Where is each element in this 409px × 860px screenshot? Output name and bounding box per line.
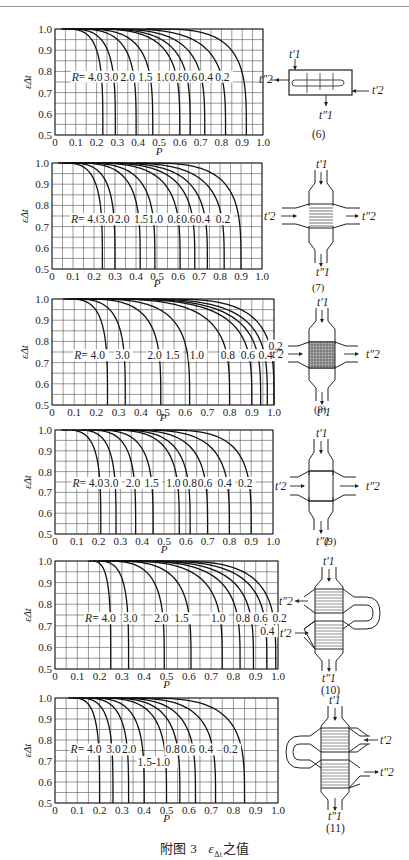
- y-tick-label: 0.7: [38, 486, 52, 498]
- curve-R-0_2: [147, 29, 247, 135]
- curve-R-4_0: [58, 163, 102, 269]
- x-tick-label: 0.5: [157, 535, 171, 547]
- x-tick-label: 0: [49, 270, 55, 282]
- curve-R-3_0: [93, 561, 129, 669]
- x-tick-label: 0.8: [223, 535, 237, 547]
- curve-R-0_8: [92, 299, 252, 405]
- curve-label: 0.4: [217, 477, 232, 489]
- x-tick-label: 0.2: [90, 136, 104, 148]
- y-axis-label: εΔt: [21, 74, 33, 89]
- curve-label: 3.0: [106, 743, 121, 755]
- diagram-9-t2-out-label: t″2: [366, 480, 380, 492]
- curve-label: 0.8: [169, 71, 184, 83]
- curve-R-0_6: [92, 163, 207, 269]
- x-tick-label: 0.7: [192, 270, 206, 282]
- curve-R-0_6: [102, 698, 196, 803]
- diagram-10-t1-in-label: t′1: [323, 555, 334, 567]
- y-tick-label: 0.6: [35, 242, 49, 254]
- curve-label: 2.0: [147, 349, 162, 361]
- y-tick-label: 0.7: [35, 357, 49, 369]
- x-axis-label: P: [155, 145, 163, 157]
- x-tick-label: 0.2: [93, 804, 107, 816]
- diagram-10-t2-out-label: t″2: [279, 595, 293, 607]
- x-tick-label: 0.7: [204, 670, 218, 682]
- curve-label: 0.6: [241, 349, 256, 361]
- y-axis-label: εΔt: [21, 607, 33, 622]
- y-axis-label: εΔt: [21, 743, 33, 758]
- y-tick-label: 0.6: [38, 776, 52, 788]
- diagram-9-t1-in-label: t′1: [316, 427, 327, 439]
- curve-R-1_5: [82, 698, 144, 803]
- curve-R-0_4: [127, 430, 229, 534]
- curve-R-1_5: [71, 163, 155, 269]
- curve-R-2_0: [81, 430, 136, 534]
- curve-label: 1.5: [144, 477, 159, 489]
- x-tick-label: 0.6: [182, 670, 196, 682]
- y-tick-label: 0.8: [35, 199, 49, 211]
- x-tick-label: 0.9: [249, 804, 263, 816]
- curve-label: 1.5: [165, 349, 180, 361]
- curve-label: 1.5-1.0: [138, 756, 171, 768]
- x-tick-label: 0.4: [129, 270, 143, 282]
- diagram-11-t2-in-label: t′2: [380, 734, 392, 746]
- y-tick-label: 0.8: [38, 734, 52, 746]
- caption-prefix: 附图 3: [160, 841, 198, 856]
- curve-R-3_0: [63, 29, 115, 135]
- x-tick-label: 0.9: [244, 535, 258, 547]
- diagram-6-number-label: (6): [312, 128, 326, 141]
- x-tick-label: 0: [49, 406, 55, 418]
- x-tick-label: 0.8: [227, 670, 241, 682]
- curve-label: 2.0: [122, 743, 137, 755]
- curve-label: R= 4.0: [71, 477, 103, 489]
- curve-label: 0.4: [260, 625, 275, 637]
- y-tick-label: 0.7: [38, 620, 52, 632]
- x-tick-label: 0: [52, 535, 58, 547]
- x-tick-label: 0.4: [131, 136, 145, 148]
- curve-R-2_0: [74, 299, 161, 405]
- y-tick-label: 0.7: [38, 87, 52, 99]
- x-tick-label: 0.3: [112, 406, 126, 418]
- curve-label: 0.6: [183, 71, 198, 83]
- x-tick-label: 0.3: [114, 535, 128, 547]
- curve-R-2_0: [77, 698, 128, 803]
- curve-label: 1.5: [174, 612, 189, 624]
- curve-R-0_2: [136, 163, 241, 269]
- y-tick-label: 0.8: [35, 335, 49, 347]
- diagram-10-two-pass-crossflow-exchanger: t′1 t″2 t′2 t″1 (10): [280, 553, 390, 693]
- curve-R-0_4: [105, 163, 225, 269]
- diagram-8-t2-in-label: t′2: [272, 348, 284, 360]
- x-tick-label: 0.5: [156, 406, 170, 418]
- x-axis-label: P: [160, 543, 168, 555]
- curve-label: R= 4.0: [70, 743, 102, 755]
- diagram-6-t2-out-label: t″2: [259, 73, 273, 85]
- y-tick-label: 0.5: [38, 129, 52, 141]
- figure-caption: 附图 3 εΔt之值: [0, 838, 409, 859]
- x-tick-label: 0.4: [135, 535, 149, 547]
- diagram-8-t1-in-label: t′1: [317, 296, 328, 308]
- x-tick-label: 0.1: [70, 535, 84, 547]
- curve-R-2_0: [67, 163, 141, 269]
- x-tick-label: 0.9: [234, 270, 248, 282]
- diagram-9-number-label: (9): [324, 536, 336, 547]
- diagram-8-crossflow-finned-exchanger: t′1 t′2 t″2 t″1: [278, 296, 388, 426]
- x-tick-label: 0.5: [160, 670, 174, 682]
- curve-label: 1.5: [138, 71, 153, 83]
- diagram-11-t1-in-label: t′1: [329, 694, 340, 706]
- x-tick-label: 0.3: [111, 136, 125, 148]
- curve-R-3_0: [72, 430, 116, 534]
- curve-label: 0.4: [258, 349, 273, 361]
- x-tick-label: 0.2: [90, 406, 104, 418]
- curve-R-2_0: [97, 561, 164, 669]
- x-tick-label: 0.1: [70, 804, 84, 816]
- curve-R-0_6: [92, 29, 204, 135]
- x-tick-label: 0.3: [115, 804, 129, 816]
- diagram-8-t2-out-label: t″2: [366, 348, 380, 360]
- curve-R-0_8: [95, 698, 180, 803]
- curve-label: 3.0: [123, 612, 138, 624]
- diagram-6-serpentine-exchanger: t′1 t″2 t′2 t″1 (6): [265, 45, 409, 155]
- curve-label: R= 4.0: [71, 71, 103, 83]
- curve-label: 1.0: [190, 349, 205, 361]
- x-tick-label: 0.1: [66, 270, 80, 282]
- x-tick-label: 0.6: [179, 535, 193, 547]
- curve-label: 1.5: [134, 213, 149, 225]
